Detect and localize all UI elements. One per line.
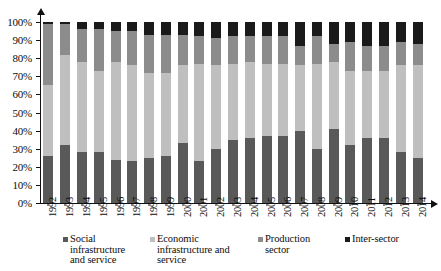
y-axis-tick-label: 20% — [12, 161, 32, 172]
legend-label-line: Economic — [157, 234, 230, 245]
bar-segment — [228, 140, 238, 203]
bar-slot — [107, 22, 124, 203]
bar-segment — [111, 31, 121, 62]
bar-segment — [94, 152, 104, 203]
legend-label: Socialinfrastructureand service — [70, 234, 125, 266]
bar-segment — [77, 62, 87, 153]
x-axis-arrow-icon — [431, 200, 438, 208]
bar-segment — [413, 44, 423, 66]
bar-segment — [329, 62, 339, 129]
bar-segment — [161, 22, 171, 35]
bar-segment — [413, 22, 423, 44]
bar-slot — [309, 22, 326, 203]
bar-slot — [208, 22, 225, 203]
bar-segment — [413, 65, 423, 157]
y-axis-tick-label: 70% — [12, 71, 32, 82]
bar-segment — [262, 136, 272, 203]
bar-segment — [396, 65, 406, 152]
y-axis-tick-label: 0% — [18, 198, 32, 209]
bar-slot — [409, 22, 426, 203]
x-axis-label-slot: 2008 — [309, 207, 326, 237]
bar-segment — [211, 65, 221, 148]
bar-segment — [43, 85, 53, 156]
chart-legend: Socialinfrastructureand service Economic… — [0, 234, 441, 271]
bar-segment — [345, 22, 355, 42]
x-axis-label-slot: 2003 — [225, 207, 242, 237]
bar-slot — [124, 22, 141, 203]
stacked-bar — [194, 22, 204, 203]
bar-segment — [211, 38, 221, 65]
bar-segment — [43, 156, 53, 203]
bar-segment — [144, 73, 154, 158]
bar-segment — [362, 71, 372, 138]
bar-segment — [228, 22, 238, 36]
bar-slot — [325, 22, 342, 203]
bar-segment — [178, 22, 188, 35]
bar-slot — [258, 22, 275, 203]
bar-segment — [278, 64, 288, 136]
bar-segment — [127, 65, 137, 161]
stacked-bar — [295, 22, 305, 203]
bar-segment — [245, 138, 255, 203]
bar-segment — [295, 65, 305, 130]
bar-segment — [161, 156, 171, 203]
bar-segment — [161, 73, 171, 156]
stacked-bar — [144, 22, 154, 203]
bar-segment — [77, 152, 87, 203]
x-axis-label-slot: 2004 — [241, 207, 258, 237]
bar-segment — [396, 152, 406, 203]
stacked-bar — [362, 22, 372, 203]
bar-slot — [157, 22, 174, 203]
bar-segment — [396, 22, 406, 42]
legend-label-line: Inter-sector — [352, 234, 399, 245]
y-axis-labels: 0%10%20%30%40%50%60%70%80%90%100% — [0, 0, 40, 225]
bar-segment — [345, 42, 355, 71]
bar-segment — [362, 22, 372, 46]
bar-segment — [211, 22, 221, 38]
bar-segment — [161, 35, 171, 73]
stacked-bar — [127, 22, 137, 203]
y-axis-tick-label: 90% — [12, 35, 32, 46]
bar-segment — [94, 29, 104, 71]
stacked-bar — [379, 22, 389, 203]
x-axis-label-slot: 2002 — [208, 207, 225, 237]
stacked-bar — [228, 22, 238, 203]
bar-segment — [312, 36, 322, 63]
y-axis-tick-label: 10% — [12, 179, 32, 190]
x-axis-label-slot: 2009 — [325, 207, 342, 237]
bar-segment — [245, 36, 255, 61]
bar-segment — [295, 22, 305, 46]
bar-segment — [60, 24, 70, 55]
bar-segment — [194, 64, 204, 162]
stacked-bar — [312, 22, 322, 203]
bar-segment — [144, 35, 154, 73]
bar-segment — [379, 71, 389, 138]
bar-segment — [312, 64, 322, 149]
bar-slot — [292, 22, 309, 203]
legend-label: Economicinfrastructure andservice — [157, 234, 230, 266]
bar-segment — [178, 143, 188, 203]
stacked-bar — [94, 22, 104, 203]
bar-segment — [60, 145, 70, 203]
bar-segment — [111, 22, 121, 31]
bar-segment — [77, 29, 87, 62]
bar-segment — [278, 36, 288, 63]
legend-label-line: and service — [70, 255, 125, 266]
y-axis-tick-label: 40% — [12, 125, 32, 136]
bar-segment — [127, 22, 137, 31]
bar-segment — [127, 31, 137, 65]
bar-segment — [345, 145, 355, 203]
stacked-bar — [211, 22, 221, 203]
legend-label-line: Social — [70, 234, 125, 245]
x-axis-label-slot: 1998 — [141, 207, 158, 237]
bar-segment — [178, 65, 188, 143]
legend-item-production: Productionsector — [258, 234, 328, 255]
y-axis-tick-label: 50% — [12, 107, 32, 118]
legend-swatch-icon — [63, 237, 68, 242]
stacked-bar — [43, 22, 53, 203]
stacked-bar — [413, 22, 423, 203]
y-axis-tick-label: 30% — [12, 143, 32, 154]
x-axis-label-slot: 1996 — [107, 207, 124, 237]
stacked-bar — [178, 22, 188, 203]
stacked-bar — [245, 22, 255, 203]
